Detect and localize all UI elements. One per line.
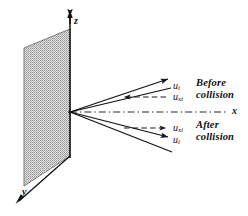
- vector-u-before: [70, 79, 171, 112]
- collision-diagram: z x y ui uxi uxi ui Before collision Aft…: [0, 0, 248, 216]
- annotation-line-1: After: [196, 119, 234, 131]
- axis-label-z: z: [74, 15, 78, 26]
- vector-u-after: [70, 112, 172, 152]
- axis-label-y: y: [22, 186, 26, 197]
- annotation-before-collision: Before collision: [196, 77, 234, 101]
- annotation-line-2: collision: [196, 131, 234, 143]
- vector-label-ux-before: uxi: [173, 91, 183, 104]
- diagram-canvas: [0, 0, 248, 216]
- annotation-after-collision: After collision: [196, 119, 234, 143]
- vector-label-u-after: ui: [173, 134, 180, 147]
- collision-point: [68, 110, 71, 113]
- annotation-line-2: collision: [196, 89, 234, 101]
- vector-subscript: xi: [178, 95, 183, 103]
- vector-subscript: i: [178, 138, 180, 146]
- annotation-line-1: Before: [196, 77, 234, 89]
- axis-label-x: x: [232, 105, 237, 116]
